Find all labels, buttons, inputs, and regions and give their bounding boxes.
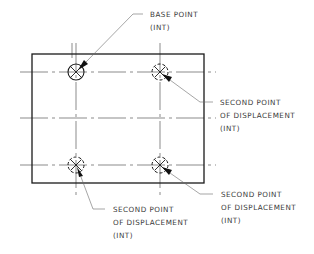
label-upper-right-line1: SECOND POINT [220, 98, 281, 107]
arrowhead-icon [162, 74, 172, 82]
leader-upper-right [162, 74, 213, 102]
arrowhead-icon [162, 167, 172, 175]
centerlines [20, 43, 216, 196]
leader-lower-right [162, 167, 213, 194]
label-lower-left-line1: SECOND POINT [113, 205, 174, 214]
label-lower-left-line2: OF DISPLACEMENT [113, 218, 188, 227]
cad-displacement-diagram: BASE POINT (INT) SECOND POINT OF DISPLAC… [0, 0, 314, 254]
label-lower-right-line1: SECOND POINT [221, 190, 282, 199]
label-upper-right-line3: (INT) [220, 124, 240, 133]
label-lower-right-line3: (INT) [221, 216, 241, 225]
leader-base-point [78, 14, 143, 70]
label-base-point-line2: (INT) [150, 23, 170, 32]
leader-lower-left [77, 167, 105, 209]
label-base-point-line1: BASE POINT [150, 10, 198, 19]
plate-outline [32, 54, 204, 183]
label-lower-left-line3: (INT) [113, 231, 133, 240]
label-upper-right-line2: OF DISPLACEMENT [220, 111, 295, 120]
label-lower-right-line2: OF DISPLACEMENT [221, 203, 296, 212]
